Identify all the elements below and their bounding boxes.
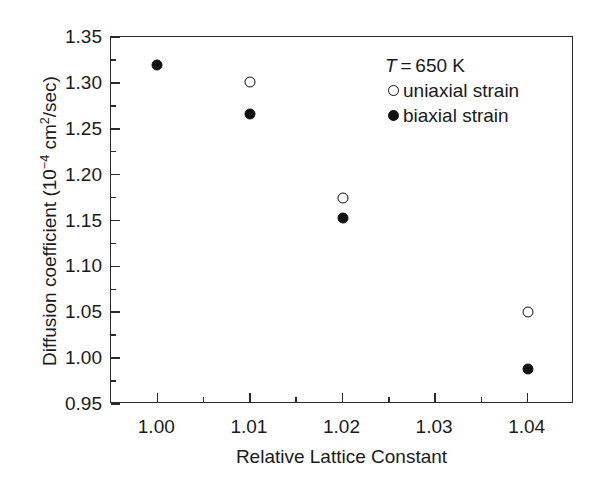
legend-entry-biaxial-label: biaxial strain (403, 103, 509, 128)
y-tick-minor (111, 197, 116, 199)
y-tick-major (111, 403, 120, 405)
x-tick-label: 1.04 (508, 417, 545, 436)
y-tick-major (111, 266, 120, 268)
open-circle-icon (383, 85, 403, 96)
y-tick-label: 1.05 (52, 302, 102, 321)
data-point-biaxial (152, 59, 163, 70)
y-tick-label: 1.25 (52, 118, 102, 137)
x-tick-major (342, 393, 344, 402)
y-tick-label: 1.35 (52, 27, 102, 46)
data-point-uniaxial (522, 307, 533, 318)
x-tick-minor (295, 397, 297, 402)
x-tick-major (434, 393, 436, 402)
y-tick-label: 1.20 (52, 164, 102, 183)
y-tick-minor (111, 105, 116, 107)
legend-temperature-annotation: T = 650 K (383, 53, 519, 78)
y-tick-major (111, 311, 120, 313)
legend-temperature-symbol: T (385, 55, 397, 76)
y-tick-label: 1.30 (52, 72, 102, 91)
x-tick-label: 1.00 (138, 417, 175, 436)
y-tick-label: 1.00 (52, 348, 102, 367)
y-tick-major (111, 36, 120, 38)
y-tick-label: 1.15 (52, 210, 102, 229)
plot-area: T = 650 K uniaxial strain biaxial strain (110, 36, 573, 403)
data-point-uniaxial (337, 192, 348, 203)
data-point-biaxial (337, 212, 348, 223)
x-tick-minor (388, 397, 390, 402)
y-tick-major (111, 82, 120, 84)
filled-circle-icon (383, 110, 403, 121)
x-tick-major (157, 393, 159, 402)
y-tick-minor (111, 380, 116, 382)
data-point-uniaxial (244, 76, 255, 87)
y-tick-minor (111, 334, 116, 336)
data-point-biaxial (522, 364, 533, 375)
data-point-biaxial (244, 109, 255, 120)
y-axis-title-exponent-2: 2 (38, 117, 52, 124)
y-tick-major (111, 220, 120, 222)
y-tick-minor (111, 151, 116, 153)
y-tick-minor (111, 59, 116, 61)
y-tick-label: 1.10 (52, 256, 102, 275)
x-tick-minor (481, 397, 483, 402)
y-tick-major (111, 128, 120, 130)
y-tick-label: 0.95 (52, 394, 102, 413)
legend-entry-biaxial: biaxial strain (383, 103, 519, 128)
x-tick-minor (203, 397, 205, 402)
x-tick-label: 1.03 (416, 417, 453, 436)
legend-entry-uniaxial: uniaxial strain (383, 78, 519, 103)
legend-entry-uniaxial-label: uniaxial strain (403, 78, 519, 103)
y-tick-minor (111, 243, 116, 245)
x-tick-major (527, 393, 529, 402)
y-axis-title-exponent-1: −4 (38, 155, 52, 169)
legend-temperature-value: = 650 K (397, 55, 465, 76)
x-tick-label: 1.01 (230, 417, 267, 436)
x-tick-label: 1.02 (323, 417, 360, 436)
y-tick-minor (111, 289, 116, 291)
x-tick-major (249, 393, 251, 402)
figure-scatter-diffusion-coefficient: Diffusion coefficient (10−4 cm2/sec) Rel… (0, 0, 603, 484)
legend: T = 650 K uniaxial strain biaxial strain (383, 53, 519, 128)
x-axis-title: Relative Lattice Constant (110, 446, 573, 468)
y-tick-major (111, 174, 120, 176)
y-tick-major (111, 357, 120, 359)
